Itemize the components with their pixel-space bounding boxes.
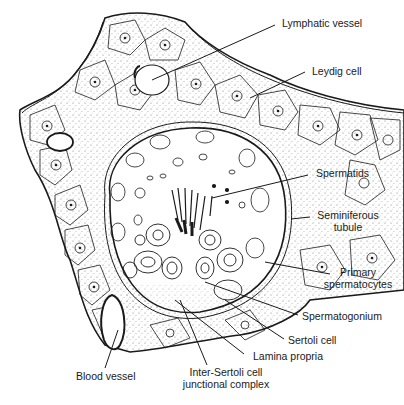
label-lymphatic-vessel: Lymphatic vessel xyxy=(282,17,362,29)
label-spermatogonium: Spermatogonium xyxy=(302,310,382,322)
label-sertoli-cell: Sertoli cell xyxy=(288,334,336,346)
small-vessel xyxy=(47,133,73,151)
label-leydig-cell: Leydig cell xyxy=(312,65,362,77)
seminiferous-tubule-diagram xyxy=(0,0,404,405)
label-blood-vessel: Blood vessel xyxy=(76,370,136,382)
label-spermatids: Spermatids xyxy=(316,167,369,179)
blood-vessel xyxy=(101,295,124,349)
label-lamina-propria: Lamina propria xyxy=(253,350,323,362)
label-inter-sertoli-junction: Inter-Sertoli cell junctional complex xyxy=(176,366,276,390)
label-primary-spermatocytes: Primary spermatocytes xyxy=(318,266,398,290)
label-seminiferous-tubule: Seminiferous tubule xyxy=(312,209,384,233)
